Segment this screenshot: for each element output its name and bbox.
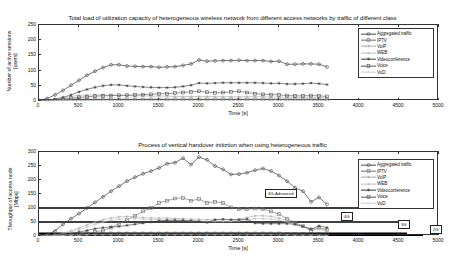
x-tick-label: 500 bbox=[66, 237, 90, 243]
x-tick-mark-top bbox=[438, 24, 439, 27]
x-tick-mark bbox=[118, 98, 119, 101]
legend-sample-plus-icon bbox=[361, 50, 376, 56]
legend-sample-square-open-icon bbox=[361, 63, 376, 69]
x-tick-mark bbox=[38, 98, 39, 101]
y-tick-mark bbox=[38, 85, 41, 86]
y-tick-label: 150 bbox=[16, 51, 36, 57]
x-tick-mark-top bbox=[78, 151, 79, 154]
x-tick-mark bbox=[118, 233, 119, 236]
x-tick-label: 3000 bbox=[266, 102, 290, 108]
x-tick-mark-top bbox=[238, 151, 239, 154]
legend-item[interactable]: VoD bbox=[361, 69, 431, 75]
x-tick-mark-top bbox=[198, 151, 199, 154]
x-tick-mark-top bbox=[158, 151, 159, 154]
x-tick-mark bbox=[398, 233, 399, 236]
top-chart-title: Total load of utilization capacity of he… bbox=[0, 14, 465, 21]
legend-label: Voice bbox=[376, 63, 388, 68]
legend-label: Aggregated traffic bbox=[376, 162, 412, 167]
legend-sample-plus-icon bbox=[361, 181, 376, 187]
x-tick-mark bbox=[358, 233, 359, 236]
y-tick-mark bbox=[38, 54, 41, 55]
y-tick-mark bbox=[38, 70, 41, 71]
y-tick-label: 50 bbox=[16, 218, 36, 224]
x-tick-mark bbox=[318, 233, 319, 236]
threshold-annotation-2g: 2G bbox=[430, 225, 442, 234]
y-tick-mark bbox=[38, 221, 41, 222]
x-tick-mark bbox=[198, 233, 199, 236]
x-tick-label: 4000 bbox=[346, 102, 370, 108]
x-tick-mark bbox=[198, 98, 199, 101]
x-tick-mark-top bbox=[238, 24, 239, 27]
x-tick-mark-top bbox=[438, 151, 439, 154]
x-tick-label: 4500 bbox=[386, 102, 410, 108]
y-tick-mark bbox=[38, 100, 41, 101]
bottom-chart-title: Process of vertical handover initiztion … bbox=[0, 141, 465, 148]
x-tick-label: 3500 bbox=[306, 237, 330, 243]
x-tick-mark bbox=[158, 233, 159, 236]
legend-label: Aggregated traffic bbox=[376, 31, 412, 36]
legend-sample-circle-icon bbox=[361, 31, 376, 37]
legend-label: IPTV bbox=[376, 169, 387, 174]
x-tick-mark-top bbox=[398, 151, 399, 154]
x-tick-mark bbox=[78, 233, 79, 236]
legend-sample-square-icon bbox=[361, 168, 376, 174]
legend-sample-circle-icon bbox=[361, 162, 376, 168]
x-tick-label: 5000 bbox=[426, 237, 450, 243]
x-tick-mark-top bbox=[358, 151, 359, 154]
legend-sample-plus-icon bbox=[361, 43, 376, 49]
threshold-annotation-3g: 3G bbox=[398, 220, 410, 229]
x-tick-mark bbox=[318, 98, 319, 101]
y-tick-label: 150 bbox=[16, 190, 36, 196]
threshold-annotation-4g: 4G bbox=[341, 212, 353, 221]
threshold-annotation-4g-advanced: 4G-Advanced bbox=[265, 189, 297, 198]
legend-sample-dot-icon bbox=[361, 200, 376, 206]
legend-label: WEB bbox=[376, 181, 387, 186]
y-tick-label: 200 bbox=[16, 176, 36, 182]
legend-marker-icon bbox=[361, 31, 376, 37]
legend-marker-icon bbox=[361, 174, 376, 180]
legend-label: WEB bbox=[376, 50, 387, 55]
y-tick-label: 100 bbox=[16, 204, 36, 210]
x-tick-mark bbox=[438, 98, 439, 101]
x-tick-label: 1500 bbox=[146, 102, 170, 108]
x-tick-mark-top bbox=[318, 151, 319, 154]
legend-marker-icon bbox=[361, 194, 376, 200]
legend-label: VoIP bbox=[376, 44, 386, 49]
top-chart-x-axis-label: Time [s] bbox=[38, 110, 438, 116]
legend-sample-dot-icon bbox=[361, 69, 376, 75]
x-tick-mark bbox=[398, 98, 399, 101]
chart-panel-bottom: Process of vertical handover initiztion … bbox=[0, 135, 465, 269]
bottom-chart-x-axis-label: Time [s] bbox=[38, 245, 438, 251]
legend-sample-plus-icon bbox=[361, 174, 376, 180]
x-tick-label: 1000 bbox=[106, 237, 130, 243]
x-tick-mark-top bbox=[78, 24, 79, 27]
legend-marker-icon bbox=[361, 56, 376, 62]
legend-label: IPTV bbox=[376, 38, 387, 43]
x-tick-mark-top bbox=[38, 151, 39, 154]
legend-label: VoD bbox=[376, 70, 385, 75]
x-tick-mark-top bbox=[318, 24, 319, 27]
legend-marker-icon bbox=[361, 69, 376, 75]
legend-marker-icon bbox=[361, 37, 376, 43]
top-chart-legend: Aggregated trafficIPTVVoIPWEBVideoconfer… bbox=[358, 28, 434, 78]
x-tick-mark bbox=[278, 98, 279, 101]
y-tick-mark bbox=[38, 207, 41, 208]
legend-sample-star-icon bbox=[361, 187, 376, 193]
y-tick-mark bbox=[38, 193, 41, 194]
x-tick-mark bbox=[358, 98, 359, 101]
x-tick-label: 3000 bbox=[266, 237, 290, 243]
legend-item[interactable]: VoD bbox=[361, 200, 431, 206]
y-tick-label: 250 bbox=[16, 162, 36, 168]
x-tick-mark bbox=[78, 98, 79, 101]
x-tick-mark-top bbox=[118, 151, 119, 154]
x-tick-label: 1000 bbox=[106, 102, 130, 108]
legend-marker-icon bbox=[361, 162, 376, 168]
legend-label: Videoconference bbox=[376, 188, 410, 193]
x-tick-mark bbox=[158, 98, 159, 101]
series-iptv bbox=[39, 197, 328, 236]
x-tick-mark bbox=[238, 98, 239, 101]
y-tick-mark bbox=[38, 235, 41, 236]
x-tick-label: 0 bbox=[26, 237, 50, 243]
x-tick-mark-top bbox=[158, 24, 159, 27]
x-tick-label: 2000 bbox=[186, 237, 210, 243]
